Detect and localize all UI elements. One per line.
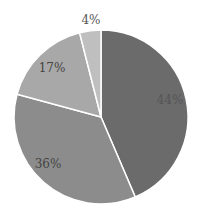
pie-chart: 44%36%17%4%: [0, 0, 199, 220]
slice-label: 36%: [35, 157, 62, 171]
slice-label: 4%: [81, 13, 100, 27]
slice-label: 17%: [39, 61, 66, 75]
slice-label: 44%: [157, 93, 184, 107]
pie-slices: [14, 30, 188, 204]
